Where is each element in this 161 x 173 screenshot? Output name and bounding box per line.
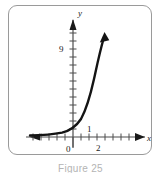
y-axis-label: y [77, 8, 82, 18]
y-tick-label-9: 9 [59, 44, 64, 54]
x-tick-label-2: 2 [96, 143, 101, 153]
x-tick-label-1: 1 [87, 124, 92, 134]
x-axis-right-arrow-icon [135, 133, 145, 141]
exponential-curve [30, 39, 104, 136]
exponential-graph-plot: y x 9 0 1 2 [8, 5, 152, 155]
x-axis-label: x [146, 133, 151, 143]
y-axis-up-arrow-icon [70, 19, 77, 30]
curve-end-arrow-icon [100, 32, 110, 43]
x-tick-label-0: 0 [66, 144, 71, 154]
figure-caption: Figure 25 [0, 163, 161, 173]
figure-container: y x 9 0 1 2 Figure 25 [0, 0, 161, 173]
